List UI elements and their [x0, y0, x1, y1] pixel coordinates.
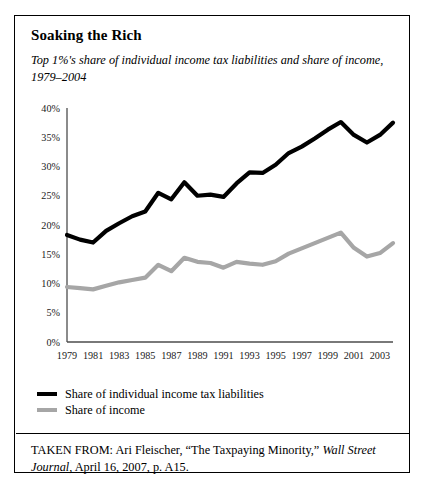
- chart-plot-area: 0%5%10%15%20%25%30%35%40% 19791981198319…: [31, 102, 397, 364]
- x-tick-label: 1989: [187, 350, 207, 361]
- line-chart: 0%5%10%15%20%25%30%35%40% 19791981198319…: [31, 102, 397, 364]
- x-tick-label: 1995: [265, 350, 285, 361]
- y-tick-label: 30%: [41, 161, 60, 172]
- chart-legend: Share of individual income tax liabiliti…: [37, 386, 387, 418]
- legend-item-tax-liabilities: Share of individual income tax liabiliti…: [37, 386, 387, 402]
- y-tick-label: 20%: [41, 220, 60, 231]
- x-tick-label: 1993: [239, 350, 259, 361]
- y-tick-label: 5%: [46, 307, 60, 318]
- source-suffix: , April 16, 2007, p. A15.: [69, 460, 189, 474]
- legend-divider: [16, 433, 409, 434]
- y-tick-label: 15%: [41, 249, 60, 260]
- legend-swatch-icon: [37, 408, 57, 412]
- figure-subtitle: Top 1%'s share of individual income tax …: [31, 52, 397, 86]
- legend-label: Share of income: [65, 404, 145, 416]
- legend-swatch-icon: [37, 392, 57, 396]
- y-tick-label: 40%: [41, 103, 60, 114]
- legend-label: Share of individual income tax liabiliti…: [65, 388, 264, 400]
- x-tick-label: 1983: [109, 350, 129, 361]
- y-tick-label: 35%: [41, 132, 60, 143]
- y-tick-label: 10%: [41, 278, 60, 289]
- y-axis-tick-labels: 0%5%10%15%20%25%30%35%40%: [41, 103, 60, 348]
- series-line-share-of-income: [67, 233, 393, 290]
- x-tick-label: 1997: [292, 350, 312, 361]
- source-prefix: TAKEN FROM: Ari Fleischer, “The Taxpayin…: [31, 443, 322, 457]
- x-tick-label: 1999: [318, 350, 338, 361]
- x-tick-label: 2001: [344, 350, 364, 361]
- y-tick-label: 0%: [46, 337, 60, 348]
- x-axis-tick-labels: 1979198119831985198719891991199319951997…: [57, 350, 390, 361]
- x-tick-label: 2003: [370, 350, 390, 361]
- x-tick-label: 1985: [135, 350, 155, 361]
- x-tick-label: 1987: [161, 350, 181, 361]
- figure-title: Soaking the Rich: [31, 27, 142, 44]
- source-citation: TAKEN FROM: Ari Fleischer, “The Taxpayin…: [31, 442, 401, 477]
- y-tick-label: 25%: [41, 190, 60, 201]
- x-tick-label: 1991: [213, 350, 233, 361]
- figure-container: Soaking the Rich Top 1%'s share of indiv…: [14, 15, 410, 473]
- x-tick-label: 1979: [57, 350, 77, 361]
- x-tick-label: 1981: [83, 350, 103, 361]
- series-line-tax-liabilities: [67, 122, 393, 243]
- legend-item-share-of-income: Share of income: [37, 402, 387, 418]
